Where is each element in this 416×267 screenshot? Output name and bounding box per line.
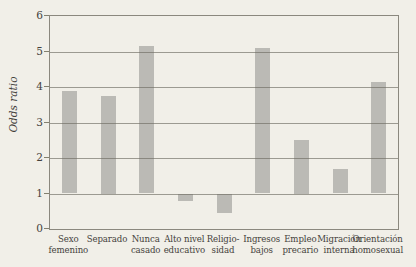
bar-2	[101, 96, 116, 194]
bar-9	[371, 82, 386, 194]
bar-3	[139, 46, 154, 193]
y-tick-label-0: 0	[18, 222, 43, 234]
bar-6	[255, 48, 270, 194]
y-tick-label-5: 5	[18, 45, 43, 57]
gridline-y-3	[50, 123, 398, 124]
bar-7	[294, 140, 309, 193]
plot-area	[49, 15, 399, 230]
gridline-y-4	[50, 87, 398, 88]
y-tick-label-6: 6	[18, 9, 43, 21]
y-tick-label-3: 3	[18, 116, 43, 128]
x-category-label-line: homosexual	[352, 245, 404, 256]
bar-1	[62, 91, 77, 194]
y-tick-label-2: 2	[18, 151, 43, 163]
gridline-y-2	[50, 158, 398, 159]
odds-ratio-bar-chart: Odds ratio 0123456 SexofemeninoSeparadoN…	[0, 0, 416, 267]
y-tick-label-4: 4	[18, 80, 43, 92]
bar-5	[217, 194, 232, 214]
x-category-label-line: Orientación	[352, 234, 404, 245]
bar-4	[178, 194, 193, 201]
x-category-label-9: Orientaciónhomosexual	[352, 234, 404, 255]
x-category-label-line: femenino	[42, 245, 94, 256]
y-tick-label-1: 1	[18, 187, 43, 199]
gridline-y-1	[50, 194, 398, 195]
bar-8	[333, 169, 348, 194]
gridline-y-5	[50, 52, 398, 53]
